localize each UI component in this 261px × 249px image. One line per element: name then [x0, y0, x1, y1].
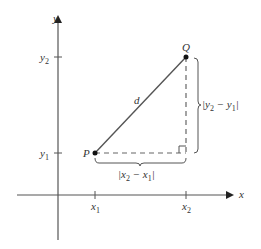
point-p-label: P	[82, 147, 90, 159]
vertical-brace-icon	[194, 58, 201, 153]
x-axis-label: x	[238, 188, 244, 200]
distance-diagram: x y y2 y1 x1 x2 d P Q |y2 − y1| |x2 − x1…	[0, 0, 261, 249]
y1-tick-label: y1	[39, 147, 49, 162]
vertical-distance-label: |y2 − y1|	[202, 98, 239, 113]
point-q	[184, 55, 189, 60]
y-axis-label: y	[52, 12, 58, 24]
point-p	[93, 151, 98, 156]
segment-d	[95, 57, 186, 153]
x1-tick-label: x1	[90, 200, 100, 215]
horizontal-distance-label: |x2 − x1|	[118, 168, 155, 183]
horizontal-brace-icon	[95, 158, 186, 166]
y2-tick-label: y2	[39, 51, 49, 66]
right-angle-icon	[179, 146, 186, 153]
point-q-label: Q	[182, 41, 190, 53]
segment-d-label: d	[134, 94, 140, 106]
x2-tick-label: x2	[181, 200, 191, 215]
